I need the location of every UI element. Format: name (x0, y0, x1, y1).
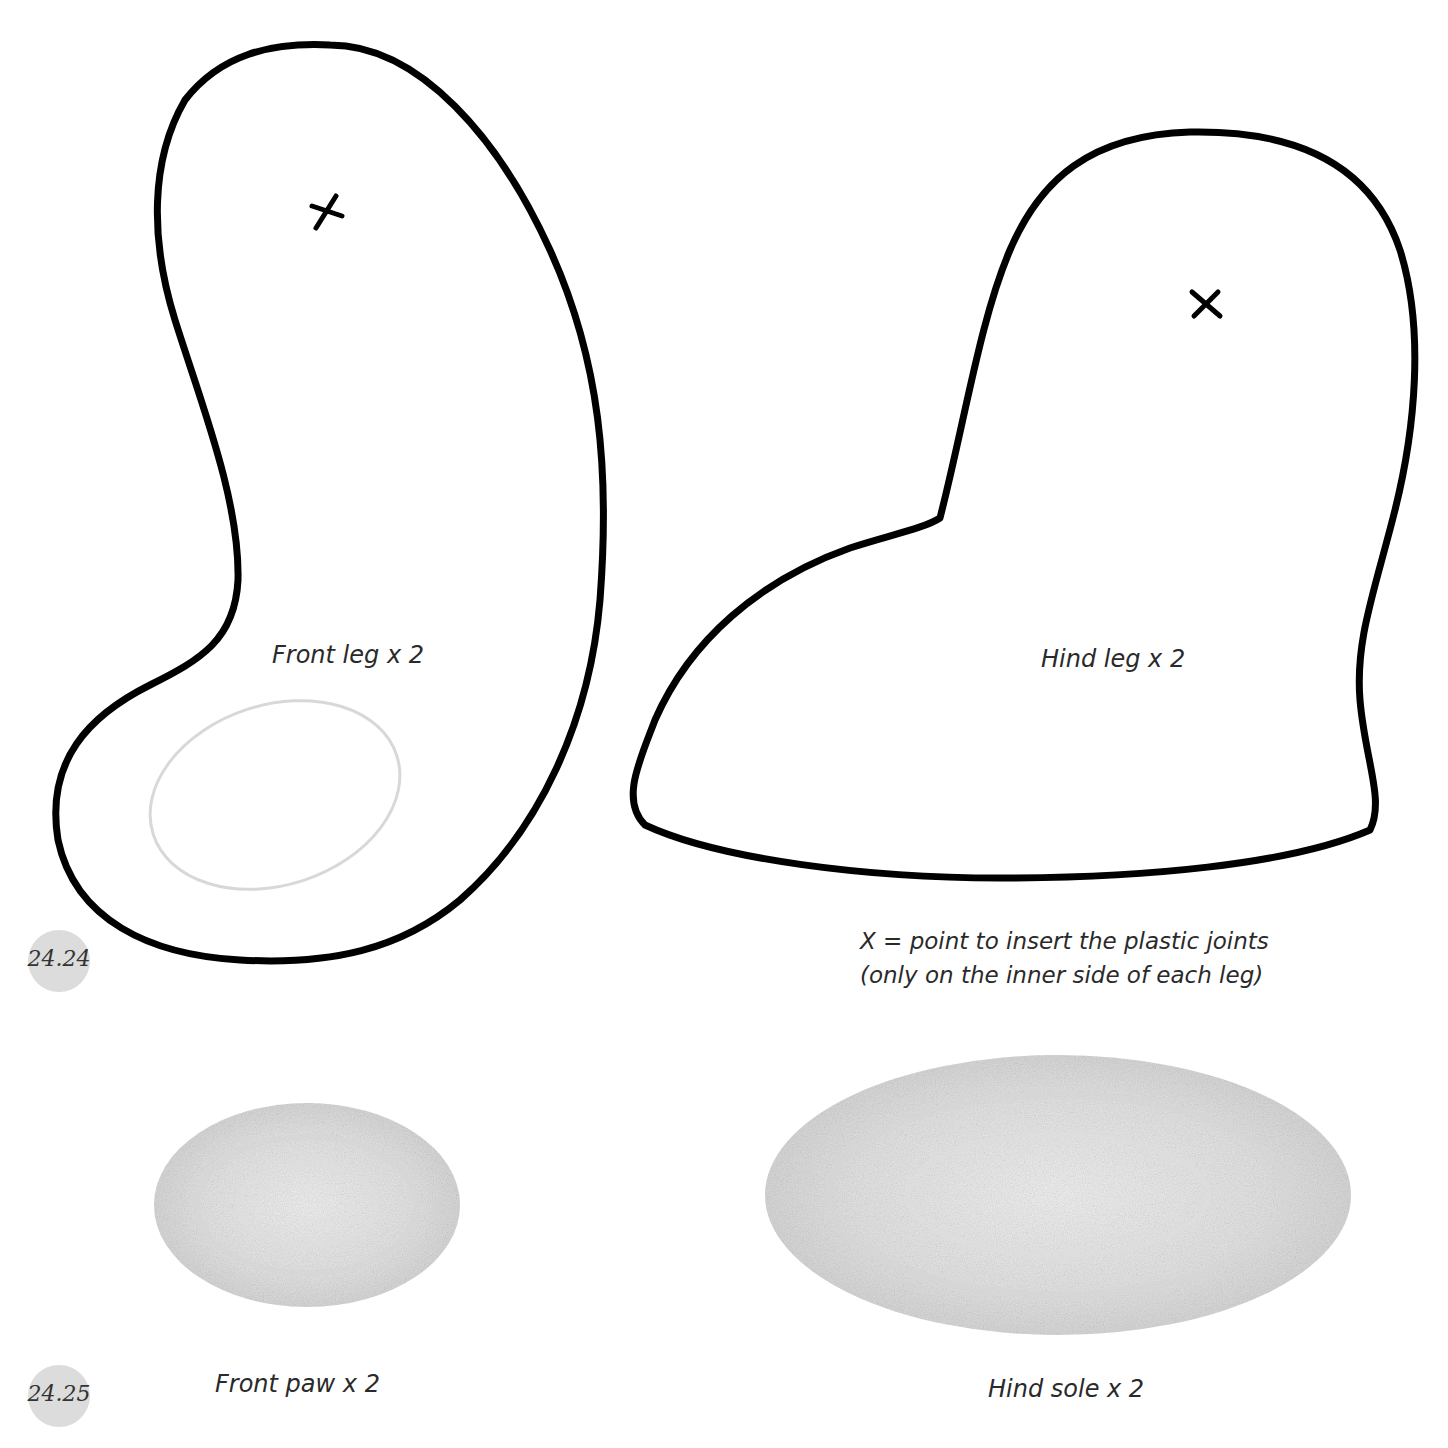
front-leg-label: Front leg x 2 (272, 641, 424, 669)
hind-leg-label: Hind leg x 2 (1041, 645, 1185, 673)
joint-mark-icon (312, 196, 342, 228)
hind-sole-piece (765, 1055, 1351, 1335)
front-paw-placement-guide (125, 670, 424, 920)
front-paw-label: Front paw x 2 (215, 1370, 380, 1398)
joint-note-line2: (only on the inner side of each leg) (860, 958, 1263, 992)
figure-number-badge: 24.24 (28, 930, 90, 992)
joint-note-line1: X = point to insert the plastic joints (860, 924, 1269, 958)
hind-leg-piece (633, 132, 1415, 878)
joint-mark-icon (1192, 292, 1220, 316)
figure-number: 24.25 (22, 1381, 96, 1406)
figure-number: 24.24 (22, 946, 96, 971)
hind-sole-label: Hind sole x 2 (988, 1375, 1144, 1403)
figure-number-badge: 24.25 (28, 1365, 90, 1427)
front-leg-outline (56, 45, 604, 961)
front-paw-piece (154, 1103, 460, 1307)
pattern-shapes (0, 0, 1448, 1448)
hind-leg-outline (633, 132, 1415, 878)
pattern-sheet: Front leg x 2 Hind leg x 2 X = point to … (0, 0, 1448, 1448)
front-leg-piece (56, 45, 604, 961)
